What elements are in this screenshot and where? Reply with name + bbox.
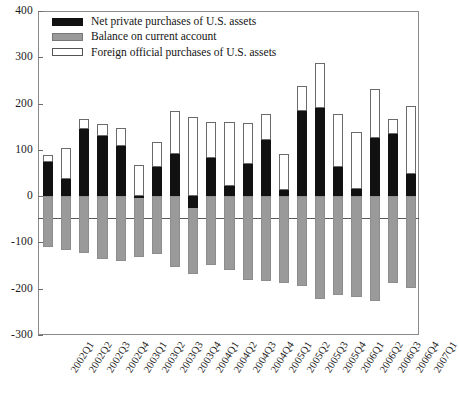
y-tick-label: -100 — [0, 236, 33, 248]
bar-segment-net-private — [79, 129, 89, 197]
bar-segment-current-account — [224, 196, 234, 270]
y-tick-label: 0 — [0, 190, 33, 202]
bar-segment-net-private — [170, 154, 180, 196]
legend-item-net-private: Net private purchases of U.S. assets — [52, 14, 276, 29]
bar-segment-net-private — [370, 138, 380, 196]
bar-segment-current-account — [333, 196, 343, 295]
y-tick-label: 100 — [0, 144, 33, 156]
bar-segment-net-private — [315, 108, 325, 196]
bar-segment-net-private — [261, 140, 271, 196]
bar-segment-foreign-official — [206, 122, 216, 158]
bar-segment-net-private — [116, 146, 126, 196]
bar-segment-current-account — [134, 196, 144, 257]
bar-segment-foreign-official — [97, 124, 107, 136]
bar-segment-current-account — [97, 196, 107, 259]
black-swatch-icon — [52, 18, 83, 26]
bar-segment-foreign-official — [297, 86, 307, 111]
y-tick-mark — [38, 335, 43, 336]
chart-legend: Net private purchases of U.S. assets Bal… — [52, 14, 276, 60]
legend-label: Balance on current account — [91, 29, 216, 44]
bar-segment-net-private — [61, 179, 71, 196]
y-tick-label: 300 — [0, 51, 33, 63]
bar-segment-current-account — [170, 196, 180, 267]
bar-segment-net-private — [388, 134, 398, 196]
legend-label: Foreign official purchases of U.S. asset… — [91, 45, 276, 60]
bar-segment-foreign-official — [152, 142, 162, 167]
y-tick-label: -200 — [0, 283, 33, 295]
bar-segment-current-account — [315, 196, 325, 299]
bar-segment-net-private — [297, 111, 307, 196]
bar-segment-net-private — [406, 174, 416, 196]
legend-item-foreign-official: Foreign official purchases of U.S. asset… — [52, 45, 276, 60]
bar-segment-foreign-official — [333, 114, 343, 167]
bar-segment-foreign-official — [315, 63, 325, 108]
bar-segment-foreign-official — [279, 154, 289, 190]
bar-segment-current-account — [388, 196, 398, 283]
bar-segment-foreign-official — [261, 114, 271, 140]
bar-segment-current-account — [261, 196, 271, 281]
bar-segment-net-private — [134, 196, 144, 198]
bar-segment-current-account — [116, 196, 126, 261]
bar-segment-current-account — [79, 196, 89, 253]
bar-segment-current-account — [370, 196, 380, 301]
bar-segment-foreign-official — [43, 155, 53, 162]
bar-segment-net-private — [206, 158, 216, 196]
y-tick-label: -300 — [0, 329, 33, 341]
bar-segment-net-private — [243, 164, 253, 196]
legend-item-current-account: Balance on current account — [52, 29, 276, 44]
white-swatch-icon — [52, 48, 83, 56]
bar-segment-current-account — [406, 196, 416, 288]
bar-segment-foreign-official — [61, 148, 71, 179]
bar-segment-foreign-official — [188, 117, 198, 196]
bar-segment-foreign-official — [134, 165, 144, 196]
bar-segment-current-account — [279, 196, 289, 283]
bar-segment-current-account — [297, 196, 307, 286]
bar-segment-net-private — [188, 196, 198, 208]
bar-segment-current-account — [243, 196, 253, 280]
y-tick-label: 200 — [0, 98, 33, 110]
bar-segment-foreign-official — [351, 132, 361, 189]
bar-segment-current-account — [152, 196, 162, 254]
gray-swatch-icon — [52, 33, 83, 41]
bar-segment-foreign-official — [243, 123, 253, 165]
bar-segment-foreign-official — [170, 111, 180, 154]
bar-segment-net-private — [333, 167, 343, 196]
legend-label: Net private purchases of U.S. assets — [91, 14, 256, 29]
bar-segment-foreign-official — [79, 119, 89, 128]
bar-segment-net-private — [351, 189, 361, 196]
bar-segment-current-account — [61, 196, 71, 250]
bar-segment-foreign-official — [388, 119, 398, 134]
bar-segment-net-private — [152, 167, 162, 197]
bar-segment-foreign-official — [224, 122, 234, 186]
bar-segment-net-private — [224, 186, 234, 196]
bar-segment-foreign-official — [406, 106, 416, 174]
bar-segment-current-account — [351, 196, 361, 297]
bar-segment-foreign-official — [370, 89, 380, 138]
bar-segment-net-private — [279, 190, 289, 196]
bar-segment-net-private — [97, 136, 107, 196]
bar-segment-net-private — [43, 162, 53, 196]
y-tick-label: 400 — [0, 5, 33, 17]
bar-segment-foreign-official — [116, 128, 126, 146]
bar-segment-current-account — [43, 196, 53, 247]
bar-segment-current-account — [206, 196, 216, 265]
